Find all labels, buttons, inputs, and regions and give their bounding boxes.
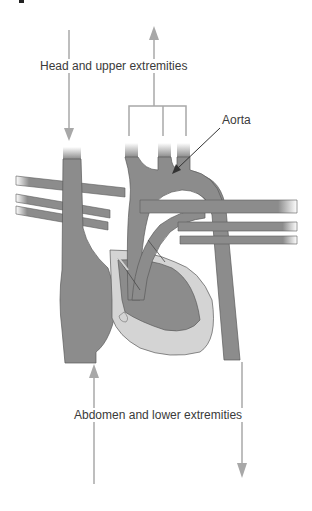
label-aorta: Aorta xyxy=(222,113,251,127)
top-arrows xyxy=(64,26,186,141)
superior-vena-cava xyxy=(60,147,118,363)
arrow-down-icon xyxy=(64,128,74,141)
label-head-upper-extremities: Head and upper extremities xyxy=(38,59,189,73)
label-abdomen-lower-extremities: Abdomen and lower extremities xyxy=(72,408,244,422)
bottom-arrows xyxy=(89,362,247,484)
arrow-up-icon xyxy=(149,26,159,40)
arrow-down-icon xyxy=(237,463,247,478)
arrow-up-icon xyxy=(89,364,99,378)
circulation-diagram xyxy=(0,0,312,511)
